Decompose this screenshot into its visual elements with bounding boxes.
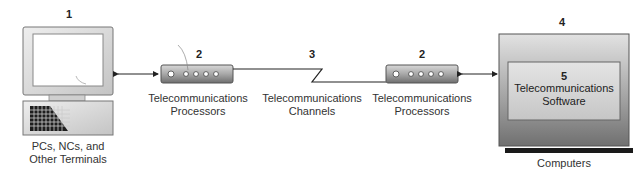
software-label-line2: Software <box>508 95 620 108</box>
terminal-label-line1: PCs, NCs, and <box>8 140 128 153</box>
channel-label-line2: Channels <box>258 105 366 118</box>
processor-right-label: Telecommunications Processors <box>368 92 476 118</box>
computer-label: Computers <box>524 157 604 170</box>
computer-number: 4 <box>555 16 569 28</box>
terminal-label: PCs, NCs, and Other Terminals <box>8 140 128 166</box>
software-number: 5 <box>508 70 620 82</box>
terminal-label-line2: Other Terminals <box>8 153 128 166</box>
channel-number: 3 <box>305 48 319 60</box>
processor-right-label-line2: Processors <box>368 105 476 118</box>
processor-left-label-line2: Processors <box>146 105 250 118</box>
processor-left-number: 2 <box>192 48 206 60</box>
processor-left-label: Telecommunications Processors <box>146 92 250 118</box>
terminal-icon <box>23 27 113 135</box>
processor-left-label-line1: Telecommunications <box>146 92 250 105</box>
channel-label: Telecommunications Channels <box>258 92 366 118</box>
processor-right-icon <box>386 65 458 83</box>
channel-label-line1: Telecommunications <box>258 92 366 105</box>
channel-line <box>233 69 386 82</box>
software-label-line1: Telecommunications <box>508 82 620 95</box>
processor-right-label-line1: Telecommunications <box>368 92 476 105</box>
software-label: 5 Telecommunications Software <box>508 70 620 108</box>
processor-right-number: 2 <box>415 48 429 60</box>
terminal-number: 1 <box>62 8 76 20</box>
